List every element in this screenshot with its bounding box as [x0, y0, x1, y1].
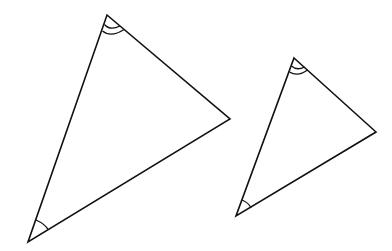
small-triangle-outline — [236, 58, 376, 216]
small-bottom-left-single-angle-mark — [242, 200, 251, 208]
large-triangle — [28, 15, 230, 242]
large-triangle-outline — [28, 15, 230, 242]
similar-triangles-diagram — [0, 0, 392, 251]
large-bottom-left-single-angle-mark — [36, 220, 49, 230]
small-triangle — [236, 58, 376, 216]
